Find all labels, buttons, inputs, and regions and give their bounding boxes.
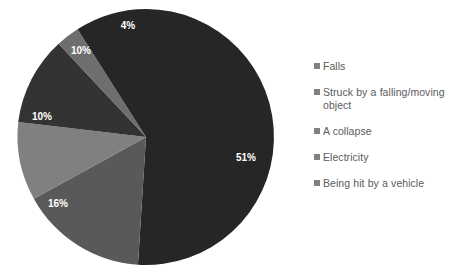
legend-marker-icon (314, 63, 320, 69)
slice-label-struck-by-object: 16% (48, 198, 68, 209)
slice-label-hit-by-vehicle: 4% (121, 20, 136, 31)
legend-item-label: Struck by a falling/movingobject (323, 86, 445, 112)
legend-item-label-line1: Struck by a falling/moving (323, 86, 445, 98)
pie-svg: 51% 16% 10% 10% 4% (0, 0, 300, 276)
legend-item-label: Electricity (323, 151, 368, 164)
legend-item-a-collapse[interactable]: A collapse (314, 125, 460, 138)
legend-item-label: A collapse (323, 125, 372, 138)
legend-marker-icon (314, 154, 320, 160)
legend-item-hit-by-vehicle[interactable]: Being hit by a vehicle (314, 177, 460, 190)
legend-marker-icon (314, 128, 320, 134)
legend-marker-icon (314, 89, 320, 95)
legend-item-label: Being hit by a vehicle (323, 177, 424, 190)
legend-item-struck-by-object[interactable]: Struck by a falling/movingobject (314, 86, 460, 112)
legend-item-label-line2: object (323, 99, 351, 111)
legend-item-electricity[interactable]: Electricity (314, 151, 460, 164)
slice-label-a-collapse: 10% (32, 111, 52, 122)
pie-chart-figure: 51% 16% 10% 10% 4% Falls Struck by a fal… (0, 0, 460, 276)
legend-item-label: Falls (323, 60, 345, 73)
legend-item-falls[interactable]: Falls (314, 60, 460, 73)
chart-legend: Falls Struck by a falling/movingobject A… (314, 60, 460, 203)
legend-marker-icon (314, 180, 320, 186)
slice-label-electricity: 10% (71, 45, 91, 56)
pie-plot-area: 51% 16% 10% 10% 4% (0, 0, 300, 276)
pie-slice-falls[interactable] (138, 9, 274, 265)
slice-label-falls: 51% (236, 152, 256, 163)
